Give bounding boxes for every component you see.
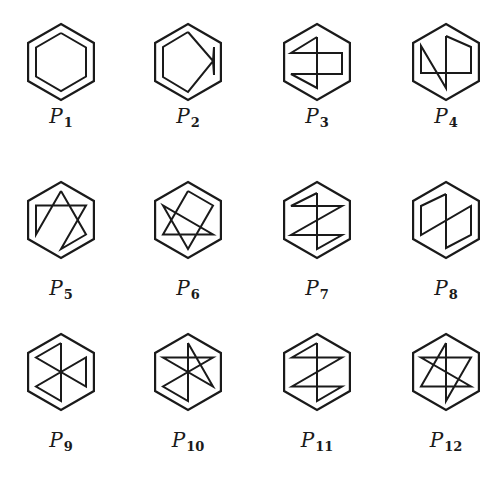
inner-path — [291, 37, 342, 88]
label-subscript: 10 — [186, 439, 204, 454]
label-main: P — [301, 428, 314, 452]
panel-label-p11: P11 — [301, 428, 334, 454]
panel-label-p4: P4 — [434, 104, 458, 130]
inner-path — [421, 194, 471, 248]
inner-path — [36, 343, 86, 401]
panel-p8 — [413, 182, 479, 258]
panel-label-p10: P10 — [172, 428, 205, 454]
panel-p6 — [155, 182, 221, 258]
label-main: P — [49, 428, 62, 452]
inner-path — [163, 191, 213, 249]
panel-p2 — [155, 24, 221, 100]
inner-path — [163, 343, 213, 401]
panel-p3 — [284, 24, 350, 100]
label-subscript: 7 — [320, 287, 329, 302]
label-subscript: 2 — [191, 115, 200, 130]
inner-path — [36, 33, 86, 91]
panel-label-p8: P8 — [434, 276, 458, 302]
panel-p7 — [284, 182, 350, 258]
label-subscript: 5 — [64, 287, 73, 302]
label-subscript: 12 — [444, 439, 462, 454]
label-main: P — [176, 104, 189, 128]
label-main: P — [305, 276, 318, 300]
label-subscript: 4 — [449, 115, 458, 130]
panel-label-p12: P12 — [430, 428, 463, 454]
panel-p4 — [413, 24, 479, 100]
label-subscript: 1 — [64, 115, 73, 130]
label-main: P — [305, 104, 318, 128]
inner-path — [421, 343, 471, 401]
panel-label-p3: P3 — [305, 104, 329, 130]
label-subscript: 8 — [449, 287, 458, 302]
panel-p9 — [28, 334, 94, 410]
panel-label-p5: P5 — [49, 276, 73, 302]
panel-label-p7: P7 — [305, 276, 329, 302]
label-subscript: 9 — [64, 439, 73, 454]
inner-path — [292, 343, 342, 401]
panel-p5 — [28, 182, 94, 258]
inner-path — [291, 193, 342, 249]
panel-label-p9: P9 — [49, 428, 73, 454]
panel-label-p1: P1 — [49, 104, 73, 130]
outer-hexagon — [28, 182, 94, 258]
panel-label-p6: P6 — [176, 276, 200, 302]
label-main: P — [49, 276, 62, 300]
panel-label-p2: P2 — [176, 104, 200, 130]
outer-hexagon — [28, 24, 94, 100]
label-subscript: 11 — [315, 439, 333, 454]
label-main: P — [430, 428, 443, 452]
label-main: P — [49, 104, 62, 128]
hexagon-pattern-figure — [0, 0, 501, 478]
panel-p11 — [284, 334, 350, 410]
panel-p10 — [155, 334, 221, 410]
label-subscript: 6 — [191, 287, 200, 302]
label-main: P — [172, 428, 185, 452]
panel-p12 — [413, 334, 479, 410]
inner-path — [421, 36, 471, 88]
inner-path — [36, 191, 86, 249]
label-main: P — [434, 276, 447, 300]
panel-p1 — [28, 24, 94, 100]
label-subscript: 3 — [320, 115, 329, 130]
label-main: P — [176, 276, 189, 300]
inner-path — [163, 32, 214, 92]
label-main: P — [434, 104, 447, 128]
